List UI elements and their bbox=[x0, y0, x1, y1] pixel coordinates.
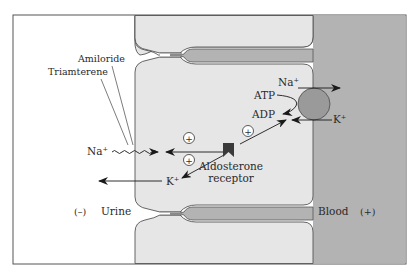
triamterene-label: Triamterene bbox=[48, 66, 108, 77]
plus-sign-na-channel: + bbox=[184, 133, 195, 144]
blood-label: Blood bbox=[318, 205, 349, 217]
svg-text:+: + bbox=[185, 134, 193, 144]
tight-junction-bottom bbox=[170, 213, 182, 216]
urine-charge: (–) bbox=[74, 206, 86, 217]
urine-label: Urine bbox=[101, 205, 131, 217]
plus-sign-pump: + bbox=[243, 126, 254, 137]
neighbour-cell-bottom bbox=[135, 215, 313, 264]
plus-sign-k-channel: + bbox=[184, 155, 195, 166]
atp-label: ATP bbox=[253, 89, 275, 101]
receptor-label-line2: receptor bbox=[208, 172, 255, 184]
amiloride-label: Amiloride bbox=[77, 53, 125, 64]
svg-text:+: + bbox=[244, 127, 252, 137]
blood-charge: (+) bbox=[360, 206, 375, 217]
k-pump-label: K⁺ bbox=[333, 113, 346, 125]
blood-compartment bbox=[313, 16, 406, 264]
neighbour-cell-top-body bbox=[135, 16, 313, 54]
diagram-canvas: Amiloride Triamterene Na⁺ K⁺ + + + Aldos… bbox=[0, 0, 418, 278]
intercellular-space-top bbox=[180, 49, 313, 62]
na-k-atpase-pump bbox=[298, 88, 330, 120]
adp-label: ADP bbox=[251, 108, 275, 120]
svg-text:+: + bbox=[185, 156, 193, 166]
receptor-label-line1: Aldosterone bbox=[198, 160, 263, 172]
na-lumen-label: Na⁺ bbox=[87, 145, 108, 157]
tight-junction-top bbox=[170, 54, 182, 57]
intercellular-space-bottom bbox=[180, 207, 313, 220]
aldosterone-diagram: Amiloride Triamterene Na⁺ K⁺ + + + Aldos… bbox=[0, 0, 418, 278]
k-lumen-label: K⁺ bbox=[166, 175, 179, 187]
na-pump-label: Na⁺ bbox=[278, 76, 299, 88]
